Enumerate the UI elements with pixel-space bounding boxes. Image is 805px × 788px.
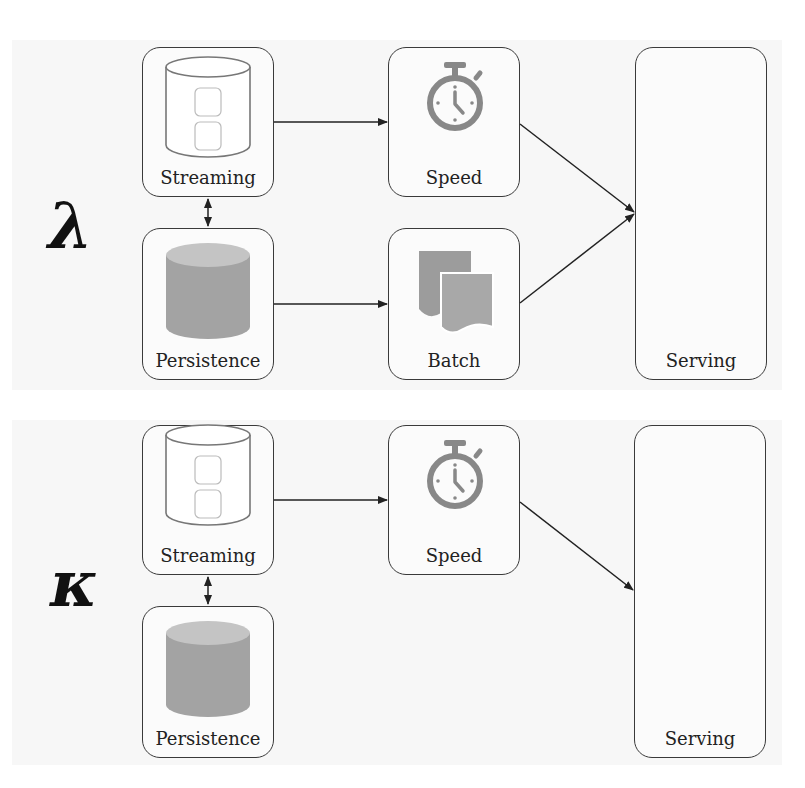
- speed-label: Speed: [389, 545, 519, 566]
- kappa-serving-node: Serving: [634, 425, 766, 758]
- streaming-database-icon: [158, 421, 258, 531]
- kappa-persistence-node: Persistence: [142, 606, 274, 758]
- lambda-speed-node: Speed: [388, 47, 520, 197]
- batch-label: Batch: [389, 350, 519, 371]
- lambda-streaming-node: Streaming: [142, 47, 274, 197]
- serving-label: Serving: [635, 728, 765, 749]
- lambda-persistence-node: Persistence: [142, 228, 274, 380]
- persistence-database-icon: [158, 237, 258, 347]
- persistence-label: Persistence: [143, 350, 273, 371]
- lambda-batch-node: Batch: [388, 228, 520, 380]
- persistence-label: Persistence: [143, 728, 273, 749]
- stopwatch-icon: [420, 438, 490, 513]
- streaming-label: Streaming: [143, 167, 273, 188]
- kappa-streaming-node: Streaming: [142, 425, 274, 575]
- lambda-serving-node: Serving: [635, 47, 767, 380]
- serving-label: Serving: [636, 350, 766, 371]
- kappa-symbol: κ: [50, 546, 98, 621]
- persistence-database-icon: [158, 615, 258, 725]
- speed-label: Speed: [389, 167, 519, 188]
- lambda-symbol: λ: [48, 188, 93, 263]
- stopwatch-icon: [420, 60, 490, 135]
- streaming-database-icon: [158, 53, 258, 163]
- streaming-label: Streaming: [143, 545, 273, 566]
- kappa-speed-node: Speed: [388, 425, 520, 575]
- batch-documents-icon: [407, 247, 497, 337]
